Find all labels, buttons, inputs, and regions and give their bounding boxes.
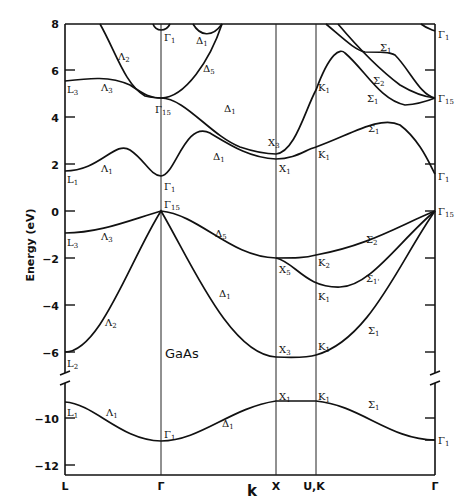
ytick-4: 4 bbox=[51, 112, 59, 125]
ytick-m2: −2 bbox=[42, 253, 59, 266]
band-conduction-4 bbox=[193, 24, 222, 34]
material-label: GaAs bbox=[165, 346, 199, 361]
symmetry-lines bbox=[161, 24, 316, 475]
label-right-gamma1-core: Γ1 bbox=[438, 435, 449, 448]
label-delta1-hump: Δ1 bbox=[224, 103, 236, 116]
ytick-6: 6 bbox=[51, 65, 59, 78]
label-gamma1-top: Γ1 bbox=[164, 32, 175, 45]
label-X1-core: X1 bbox=[279, 391, 291, 404]
label-sigma1-top2: Σ1 bbox=[367, 93, 379, 106]
label-right-gamma1-top: Γ1 bbox=[438, 29, 449, 42]
label-delta5-top: Δ5 bbox=[203, 63, 215, 76]
band-structure-chart: 8 6 4 2 0 −2 −4 −6 −10 −12 L Γ X U,K Γ E… bbox=[0, 0, 469, 499]
label-X1-c: X1 bbox=[279, 163, 291, 176]
label-L1-mid: L1 bbox=[67, 174, 78, 187]
label-delta1-v: Δ1 bbox=[219, 288, 231, 301]
label-lambda1: Λ1 bbox=[100, 163, 113, 176]
ytick-8: 8 bbox=[51, 18, 59, 31]
label-sigma1-c: Σ1 bbox=[368, 123, 380, 136]
label-gamma15p: Γ15 bbox=[155, 104, 171, 117]
label-sigma1-core: Σ1 bbox=[368, 399, 380, 412]
label-right-gamma1-c: Γ1 bbox=[438, 171, 449, 184]
label-sigma1-low: Σ1 bbox=[368, 325, 380, 338]
label-K1-v: K1 bbox=[318, 291, 330, 304]
label-delta1-top: Δ1 bbox=[196, 35, 208, 48]
label-delta1-core: Δ1 bbox=[222, 418, 234, 431]
label-K1-top: K1 bbox=[318, 82, 330, 95]
ytick-m10: −10 bbox=[34, 413, 59, 426]
xtick-gamma: Γ bbox=[157, 480, 164, 493]
band-right-top-gamma bbox=[421, 24, 435, 31]
label-lambda1-core: Λ1 bbox=[105, 407, 118, 420]
ytick-2: 2 bbox=[51, 159, 59, 172]
label-sigma1p-v: Σ1' bbox=[366, 273, 380, 286]
x-axis-label: k bbox=[247, 482, 258, 499]
label-lambda3-top: Λ3 bbox=[100, 82, 113, 95]
label-X3-c: X3 bbox=[268, 137, 280, 150]
label-right-gamma15-c: Γ15 bbox=[438, 93, 454, 106]
label-gamma15-v: Γ15 bbox=[164, 199, 180, 212]
xtick-UK: U,K bbox=[303, 480, 325, 493]
label-L3-top: L3 bbox=[67, 84, 78, 97]
label-L3-val: L3 bbox=[67, 237, 78, 250]
label-lambda3-val: Λ3 bbox=[100, 231, 113, 244]
label-L2: L2 bbox=[67, 358, 78, 371]
label-sigma2-v: Σ2 bbox=[366, 234, 378, 247]
label-K1-c: K1 bbox=[318, 149, 330, 162]
label-X5-v: X5 bbox=[279, 264, 291, 277]
y-axis-label: Energy (eV) bbox=[24, 208, 37, 281]
label-gamma1-c: Γ1 bbox=[164, 181, 175, 194]
label-lambda2-val: Λ2 bbox=[104, 317, 117, 330]
label-K2-v: K2 bbox=[318, 257, 330, 270]
label-delta1-low: Δ1 bbox=[213, 151, 225, 164]
ytick-m6: −6 bbox=[42, 347, 59, 360]
xtick-L: L bbox=[61, 480, 68, 493]
label-right-gamma15-v: Γ15 bbox=[438, 206, 454, 219]
ytick-0: 0 bbox=[51, 206, 59, 219]
xtick-gamma-right: Γ bbox=[431, 480, 438, 493]
band-valence-2 bbox=[65, 211, 435, 258]
symmetry-labels: L3 L1 L3 L2 L1 Λ2 Λ3 Λ1 Λ3 Λ2 Λ1 Γ1 Γ15 … bbox=[67, 29, 454, 448]
ytick-m12: −12 bbox=[34, 460, 59, 473]
xtick-X: X bbox=[272, 480, 281, 493]
label-X3-v: X3 bbox=[279, 344, 291, 357]
ytick-m4: −4 bbox=[42, 300, 59, 313]
y-tick-labels: 8 6 4 2 0 −2 −4 −6 −10 −12 bbox=[34, 18, 59, 473]
